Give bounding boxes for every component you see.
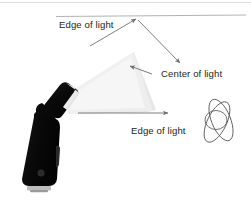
diagram-canvas xyxy=(0,0,251,206)
center-arrow xyxy=(138,20,180,63)
subject-head-circle xyxy=(205,111,227,130)
horizontal-reference-line xyxy=(56,15,246,17)
light-cone xyxy=(67,52,156,114)
flash-foot-base xyxy=(30,190,48,192)
flash-control-dial xyxy=(37,169,44,176)
label-edge-of-light-top: Edge of light xyxy=(59,19,114,31)
flash-side-panel xyxy=(56,146,60,167)
speedlight-flash xyxy=(22,82,79,192)
subject-ellipse-left xyxy=(199,98,235,146)
flash-hot-shoe-foot xyxy=(27,186,51,191)
subject-figure xyxy=(199,96,238,146)
flash-light-diagram: Edge of light Center of light Edge of li… xyxy=(0,0,251,206)
label-edge-of-light-bottom: Edge of light xyxy=(131,125,186,137)
subject-ellipse-right xyxy=(204,96,238,144)
label-center-of-light: Center of light xyxy=(161,68,222,80)
